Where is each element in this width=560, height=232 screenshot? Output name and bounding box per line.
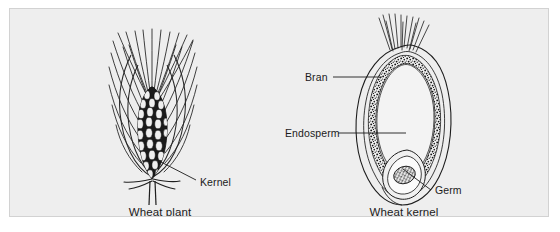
label-kernel: Kernel	[200, 176, 231, 188]
figure-frame: Kernel Bran Endosperm Germ Wheat plant W…	[9, 8, 549, 217]
wheat-plant-drawing	[109, 29, 197, 205]
label-germ: Germ	[435, 184, 462, 196]
leader-line-kernel	[161, 162, 196, 180]
caption-wheat-plant: Wheat plant	[129, 206, 191, 217]
figure-root: Kernel Bran Endosperm Germ Wheat plant W…	[0, 0, 560, 232]
label-bran: Bran	[305, 71, 328, 83]
caption-wheat-kernel: Wheat kernel	[370, 206, 439, 217]
figure-illustration	[10, 9, 549, 217]
wheat-kernel-drawing	[333, 14, 451, 205]
label-endosperm: Endosperm	[285, 127, 340, 139]
